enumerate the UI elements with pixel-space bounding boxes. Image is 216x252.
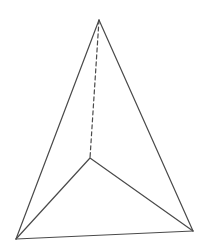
tetrahedron-figure <box>0 0 216 252</box>
edge-apex-bottom-right <box>99 20 193 231</box>
edge-inner-bottom-left <box>16 158 90 239</box>
edge-bottom-left-bottom-right <box>16 231 193 239</box>
edge-apex-bottom-left <box>16 20 99 239</box>
tetrahedron-diagram <box>0 0 216 252</box>
edge-inner-bottom-right <box>90 158 193 231</box>
